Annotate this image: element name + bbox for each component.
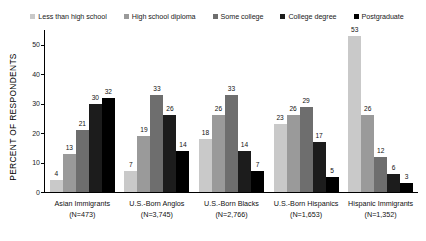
bar[interactable]: 33 xyxy=(225,95,238,192)
bar-slot: 30 xyxy=(89,30,102,192)
bar[interactable]: 14 xyxy=(238,151,251,192)
bar[interactable]: 3 xyxy=(400,183,413,192)
bar[interactable]: 26 xyxy=(163,115,176,192)
bar[interactable]: 6 xyxy=(387,174,400,192)
bar[interactable]: 32 xyxy=(102,98,115,192)
bar-slot: 29 xyxy=(300,30,313,192)
bar-value-label: 19 xyxy=(140,126,147,134)
bar[interactable]: 26 xyxy=(361,115,374,192)
bar[interactable]: 53 xyxy=(348,36,361,192)
bar-group: 182633147 xyxy=(194,30,269,192)
bar[interactable]: 23 xyxy=(274,124,287,192)
x-axis-category-count: (N=1,653) xyxy=(269,209,344,220)
bar-slot: 5 xyxy=(326,30,339,192)
bar[interactable]: 18 xyxy=(199,139,212,192)
x-axis-labels: Asian Immigrants(N=473)U.S.-Born Anglos(… xyxy=(45,198,418,220)
bar-slot: 32 xyxy=(102,30,115,192)
bar-value-label: 26 xyxy=(289,105,296,113)
bar[interactable]: 5 xyxy=(326,177,339,192)
y-axis-title: PERCENT OF RESPONDENTS xyxy=(6,32,20,202)
bar-groups: 4132130327193326141826331472326291755326… xyxy=(45,30,418,192)
bar-value-label: 26 xyxy=(166,105,173,113)
bar-value-label: 7 xyxy=(256,161,260,169)
x-axis-line xyxy=(44,192,418,193)
bar-value-label: 26 xyxy=(364,105,371,113)
x-axis-category-count: (N=1,352) xyxy=(343,209,418,220)
y-axis-tick-label: 30 xyxy=(18,100,40,107)
legend-item-label: High school diploma xyxy=(132,12,196,21)
bar-slot: 26 xyxy=(287,30,300,192)
legend-swatch-icon xyxy=(354,14,359,19)
legend-swatch-icon xyxy=(213,14,218,19)
bar-value-label: 29 xyxy=(302,97,309,105)
bar-value-label: 17 xyxy=(315,132,322,140)
bar-value-label: 14 xyxy=(241,141,248,149)
bar[interactable]: 4 xyxy=(50,180,63,192)
legend-item[interactable]: College degree xyxy=(280,12,336,21)
plot-area: 01020304050 4132130327193326141826331472… xyxy=(44,30,418,193)
bar-slot: 23 xyxy=(274,30,287,192)
bar-slot: 19 xyxy=(137,30,150,192)
x-axis-category-name: Asian Immigrants xyxy=(45,198,120,209)
bar-slot: 12 xyxy=(374,30,387,192)
bar-value-label: 7 xyxy=(129,161,133,169)
bar-slot: 21 xyxy=(76,30,89,192)
legend-item[interactable]: Less than high school xyxy=(30,12,106,21)
y-axis-tick-mark xyxy=(41,133,44,134)
legend-swatch-icon xyxy=(30,14,35,19)
y-axis-tick-mark xyxy=(41,192,44,193)
bar-slot: 4 xyxy=(50,30,63,192)
bar-slot: 33 xyxy=(225,30,238,192)
bar-group: 413213032 xyxy=(45,30,120,192)
x-axis-category-count: (N=3,745) xyxy=(120,209,195,220)
bar-slot: 3 xyxy=(400,30,413,192)
y-axis-tick-mark xyxy=(41,104,44,105)
bar-slot: 7 xyxy=(124,30,137,192)
chart-legend: Less than high schoolHigh school diploma… xyxy=(0,8,426,24)
bar[interactable]: 19 xyxy=(137,136,150,192)
bar-value-label: 21 xyxy=(79,120,86,128)
bar[interactable]: 33 xyxy=(150,95,163,192)
y-axis-tick-label: 0 xyxy=(18,189,40,196)
legend-item[interactable]: High school diploma xyxy=(124,12,196,21)
y-axis-tick-mark xyxy=(41,163,44,164)
x-axis-category-count: (N=2,766) xyxy=(194,209,269,220)
bar-value-label: 53 xyxy=(351,26,358,34)
bar[interactable]: 21 xyxy=(76,130,89,192)
bar[interactable]: 7 xyxy=(124,171,137,192)
bar[interactable]: 17 xyxy=(313,142,326,192)
x-axis-category: U.S.-Born Blacks(N=2,766) xyxy=(194,198,269,220)
bar[interactable]: 13 xyxy=(63,154,76,192)
y-axis-tick-label: 40 xyxy=(18,71,40,78)
bar[interactable]: 7 xyxy=(251,171,264,192)
x-axis-category-name: U.S.-Born Blacks xyxy=(194,198,269,209)
bar-slot: 14 xyxy=(238,30,251,192)
x-axis-category-name: U.S.-Born Hispanics xyxy=(269,198,344,209)
legend-item[interactable]: Postgraduate xyxy=(354,12,404,21)
bar[interactable]: 26 xyxy=(287,115,300,192)
legend-item-label: College degree xyxy=(288,12,336,21)
x-axis-category: Asian Immigrants(N=473) xyxy=(45,198,120,220)
bar-value-label: 33 xyxy=(228,85,235,93)
legend-item[interactable]: Some college xyxy=(213,12,264,21)
bar-value-label: 23 xyxy=(276,114,283,122)
y-axis-tick-mark xyxy=(41,74,44,75)
bar-value-label: 13 xyxy=(66,144,73,152)
x-axis-category: U.S.-Born Anglos(N=3,745) xyxy=(120,198,195,220)
legend-item-label: Postgraduate xyxy=(362,12,404,21)
bar-value-label: 18 xyxy=(202,129,209,137)
x-axis-category: U.S.-Born Hispanics(N=1,653) xyxy=(269,198,344,220)
bar-slot: 17 xyxy=(313,30,326,192)
bar-value-label: 33 xyxy=(153,85,160,93)
bar-value-label: 32 xyxy=(105,88,112,96)
bar-group: 719332614 xyxy=(120,30,195,192)
bar-slot: 14 xyxy=(176,30,189,192)
bar-value-label: 26 xyxy=(215,105,222,113)
bar[interactable]: 12 xyxy=(374,157,387,192)
bar[interactable]: 29 xyxy=(300,107,313,192)
bar[interactable]: 26 xyxy=(212,115,225,192)
bar[interactable]: 14 xyxy=(176,151,189,192)
bar[interactable]: 30 xyxy=(89,104,102,192)
legend-swatch-icon xyxy=(124,14,129,19)
y-axis-title-text: PERCENT OF RESPONDENTS xyxy=(8,53,18,181)
